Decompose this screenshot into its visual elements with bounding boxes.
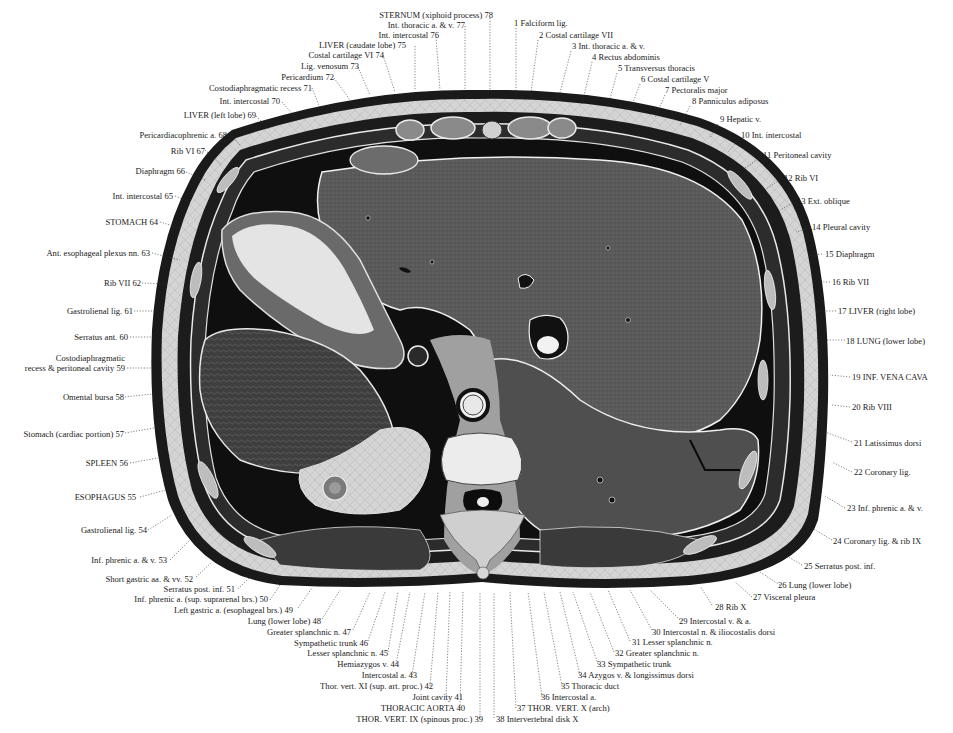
- label-39: THOR. VERT. IX (spinous proc.) 39: [356, 714, 483, 724]
- label-22: 22 Coronary lig.: [854, 467, 911, 477]
- label-53: Inf. phrenic a. & v. 53: [91, 555, 167, 565]
- label-47: Greater splanchnic n. 47: [267, 627, 351, 637]
- label-42: Thor. vert. XI (sup. art. proc.) 42: [320, 681, 433, 691]
- label-34: 34 Azygos v. & longissimus dorsi: [578, 670, 694, 680]
- label-40: THORACIC AORTA 40: [381, 703, 465, 713]
- label-29: 29 Intercostal v. & a.: [679, 616, 751, 626]
- label-11: 11 Peritoneal cavity: [763, 150, 831, 160]
- label-45: Lesser splanchnic n. 45: [307, 648, 388, 658]
- label-72: Pericardium 72: [281, 72, 334, 82]
- label-38: 38 Intervertebral disk X: [496, 714, 578, 724]
- label-66: Diaphragm 66: [136, 166, 185, 176]
- label-26: 26 Lung (lower lobe): [778, 580, 851, 590]
- label-52: Short gastric aa. & vv. 52: [105, 574, 193, 584]
- label-67: Rib VI 67: [171, 146, 205, 156]
- label-57: Stomach (cardiac portion) 57: [24, 429, 124, 439]
- label-16: 16 Rib VII: [832, 277, 869, 287]
- label-30: 30 Intercostal n. & iliocostalis dorsi: [652, 627, 775, 637]
- label-54: Gastrolienal lig. 54: [81, 525, 147, 535]
- label-74: Costal cartilage VI 74: [308, 50, 384, 60]
- label-35: 35 Thoracic duct: [561, 681, 619, 691]
- label-36: 36 Intercostal a.: [541, 692, 596, 702]
- label-61: Gastrolienal lig. 61: [67, 306, 133, 316]
- label-10: 10 Int. intercostal: [741, 130, 801, 140]
- label-7: 7 Pectoralis major: [665, 85, 728, 95]
- label-41: Joint cavity 41: [412, 692, 463, 702]
- label-31: 31 Lesser splanchnic n.: [632, 637, 713, 647]
- label-60: Serratus ant. 60: [74, 332, 128, 342]
- label-15: 15 Diaphragm: [825, 249, 874, 259]
- label-17: 17 LIVER (right lobe): [838, 306, 915, 316]
- label-5: 5 Transversus thoracis: [618, 63, 695, 73]
- label-48: Lung (lower lobe) 48: [248, 616, 321, 626]
- label-14: 14 Pleural cavity: [812, 222, 870, 232]
- label-51: Serratus post. inf. 51: [164, 584, 235, 594]
- label-64: STOMACH 64: [105, 217, 158, 227]
- label-58: Omental bursa 58: [63, 392, 124, 402]
- label-6: 6 Costal cartilage V: [641, 74, 709, 84]
- label-24: 24 Coronary lig. & rib IX: [833, 536, 921, 546]
- label-69: LIVER (left lobe) 69: [184, 110, 256, 120]
- label-55: ESOPHAGUS 55: [75, 492, 136, 502]
- label-20: 20 Rib VIII: [852, 402, 892, 412]
- label-43: Intercostal a. 43: [362, 670, 417, 680]
- label-75: LIVER (caudate lobe) 75: [319, 40, 406, 50]
- label-78: STERNUM (xiphoid process) 78: [379, 10, 493, 20]
- label-68: Pericardiacophrenic a. 68: [139, 130, 227, 140]
- label-12: 12 Rib VI: [784, 173, 818, 183]
- label-49: Left gastric a. (esophageal brs.) 49: [174, 605, 293, 615]
- label-3: 3 Int. thoracic a. & v.: [572, 41, 645, 51]
- label-8: 8 Panniculus adiposus: [692, 96, 768, 106]
- label-71: Costodiaphragmatic recess 71: [209, 83, 312, 93]
- label-32: 32 Greater splanchnic n.: [615, 648, 699, 658]
- label-37: 37 THOR. VERT. X (arch): [517, 703, 610, 713]
- label-13: 13 Ext. oblique: [797, 196, 850, 206]
- label-73: Lig. venosum 73: [301, 61, 359, 71]
- label-76: Int. intercostal 76: [379, 30, 439, 40]
- label-2: 2 Costal cartilage VII: [539, 30, 613, 40]
- label-59: Costodiaphragmatic recess & peritoneal c…: [25, 353, 125, 373]
- label-77: Int. thoracic a. & v. 77: [388, 20, 465, 30]
- cross-section-figure: 1 Falciform lig. 2 Costal cartilage VII …: [0, 0, 953, 733]
- label-33: 33 Sympathetic trunk: [597, 659, 671, 669]
- label-63: Ant. esophageal plexus nn. 63: [46, 248, 150, 258]
- label-19: 19 INF. VENA CAVA: [852, 372, 928, 382]
- label-1: 1 Falciform lig.: [514, 18, 568, 28]
- label-70: Int. intercostal 70: [220, 96, 280, 106]
- label-44: Hemiazygos v. 44: [337, 659, 399, 669]
- label-27: 27 Visceral pleura: [753, 592, 815, 602]
- label-56: SPLEEN 56: [86, 458, 128, 468]
- label-28: 28 Rib X: [715, 602, 747, 612]
- label-50: Inf. phrenic a. (sup. suprarenal brs.) 5…: [134, 594, 268, 604]
- label-23: 23 Inf. phrenic a. & v.: [847, 503, 923, 513]
- anatomy-section-svg: [0, 0, 953, 733]
- label-4: 4 Rectus abdominis: [592, 52, 660, 62]
- label-62: Rib VII 62: [104, 278, 141, 288]
- label-65: Int. intercostal 65: [113, 191, 173, 201]
- label-25: 25 Serratus post. inf.: [804, 561, 875, 571]
- label-9: 9 Hepatic v.: [720, 114, 761, 124]
- label-21: 21 Latissimus dorsi: [854, 438, 921, 448]
- label-18: 18 LUNG (lower lobe): [846, 336, 925, 346]
- label-46: Sympathetic trunk 46: [294, 638, 368, 648]
